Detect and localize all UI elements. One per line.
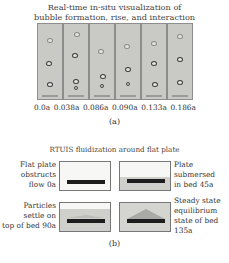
subfigure-label-b: (b): [0, 239, 229, 248]
time-label: 0.090a: [112, 103, 138, 112]
time-label: 0.133a: [141, 103, 167, 112]
caption-90a: Particles settle on top of bed 90a: [0, 201, 56, 231]
time-label: 0.186a: [170, 103, 196, 112]
time-label: 0.038a: [54, 103, 80, 112]
plate-frame-45a: [119, 161, 171, 191]
bubble-frame-1: [38, 24, 62, 99]
time-label: 0.0a: [34, 103, 50, 112]
bubble-frame-2: [64, 24, 88, 99]
plate-frame-90a: [59, 202, 111, 232]
plate-frame-0a: [59, 161, 111, 191]
time-label: 0.086a: [83, 103, 109, 112]
bubble-frame-3: [90, 24, 114, 99]
plate-frame-135a: [119, 202, 171, 232]
figure-a-title-line2: bubble formation, rise, and interaction: [0, 12, 229, 23]
figure-b-title: RTUIS fluidization around flat plate: [0, 145, 229, 154]
time-labels: 0.0a 0.038a 0.086a 0.090a 0.133a 0.186a: [34, 103, 196, 112]
caption-0a: Flat plate obstructs flow 0a: [0, 160, 56, 190]
bubble-frame-6: [168, 24, 192, 99]
caption-45a: Plate submersed in bed 45a: [174, 160, 229, 190]
caption-135a: Steady state equilibrium state of bed 13…: [174, 196, 229, 236]
subfigure-label-a: (a): [0, 117, 229, 126]
bubble-image-strip: [37, 23, 193, 100]
bubble-frame-5: [142, 24, 166, 99]
bubble-frame-4: [116, 24, 140, 99]
